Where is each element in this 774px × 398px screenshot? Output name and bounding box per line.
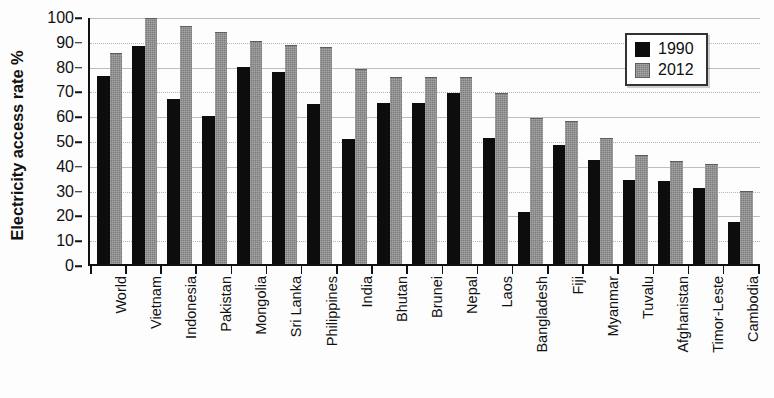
x-axis-tick-label: Tuvalu <box>640 276 656 319</box>
bar-group <box>92 18 127 264</box>
x-axis-tick-mark <box>617 266 619 274</box>
x-axis-tick-label: Timor-Leste <box>710 276 726 353</box>
x-axis-tick-mark <box>125 266 127 274</box>
bar-2012 <box>250 41 263 264</box>
y-axis-tick-label: 0 <box>65 257 74 275</box>
x-axis-tick-label: Laos <box>499 276 515 307</box>
x-axis-tick-label: Afghanistan <box>675 276 691 353</box>
bar-1990 <box>693 188 706 264</box>
x-axis-tick-mark <box>371 266 373 274</box>
y-axis-tick-label: 60 <box>56 108 74 126</box>
legend-item-2012: 2012 <box>635 61 694 79</box>
bar-2012 <box>355 69 368 264</box>
bar-2012 <box>215 32 228 264</box>
y-axis-tick-label: 30 <box>56 183 74 201</box>
x-axis-tick-mark <box>195 266 197 274</box>
x-axis-tick-mark <box>512 266 514 274</box>
x-axis-tick-mark <box>90 266 92 274</box>
bar-group <box>372 18 407 264</box>
y-axis-tick-mark <box>75 240 82 242</box>
bar-1990 <box>588 160 601 264</box>
bar-group <box>442 18 477 264</box>
x-axis-tick-mark <box>653 266 655 274</box>
y-axis-tick-mark <box>75 265 82 267</box>
bar-2012 <box>530 118 543 264</box>
y-axis-tick-mark <box>75 42 82 44</box>
y-axis-tick-mark <box>75 191 82 193</box>
bar-1990 <box>518 212 531 264</box>
x-axis-tick-mark <box>477 266 479 274</box>
bar-2012 <box>635 155 648 264</box>
y-axis-tick-mark <box>75 116 82 118</box>
x-axis-tick-label: Vietnam <box>148 276 164 329</box>
x-axis-tick-label: India <box>359 276 375 307</box>
bar-2012 <box>110 53 123 264</box>
bar-2012 <box>565 121 578 264</box>
x-axis-tick-marks <box>88 266 760 276</box>
x-axis-tick-mark <box>723 266 725 274</box>
x-axis-label-slot: Cambodia <box>745 276 774 296</box>
bar-group <box>337 18 372 264</box>
legend-item-1990: 1990 <box>635 40 694 58</box>
x-axis-tick-mark <box>442 266 444 274</box>
bar-2012 <box>600 138 613 264</box>
bar-2012 <box>320 47 333 264</box>
y-axis-tick-labels: 0102030405060708090100 <box>36 18 82 266</box>
y-axis-tick-label: 40 <box>56 158 74 176</box>
x-axis-tick-label: Fiji <box>570 276 586 295</box>
y-axis-tick-mark <box>75 67 82 69</box>
bar-2012 <box>705 164 718 264</box>
y-axis-tick-label: 50 <box>56 133 74 151</box>
bar-1990 <box>167 99 180 264</box>
bar-chart-figure: Electricity access rate % 01020304050607… <box>0 0 774 398</box>
x-axis-tick-label: World <box>113 276 129 314</box>
x-axis-tick-label: Mongolia <box>253 276 269 335</box>
legend-swatch-icon <box>635 63 650 78</box>
bar-group <box>197 18 232 264</box>
bar-1990 <box>342 139 355 264</box>
bar-2012 <box>285 45 298 264</box>
bar-group <box>723 18 758 264</box>
y-axis-tick-mark <box>75 141 82 143</box>
y-axis-tick-label: 100 <box>47 9 74 27</box>
x-axis-tick-mark <box>688 266 690 274</box>
chart-legend: 19902012 <box>625 33 708 86</box>
bar-1990 <box>202 116 215 264</box>
y-axis-title: Electricity access rate % <box>8 50 27 240</box>
x-axis-tick-label: Bangladesh <box>534 276 550 353</box>
bar-1990 <box>307 104 320 264</box>
bar-group <box>583 18 618 264</box>
x-axis-tick-label: Indonesia <box>183 276 199 339</box>
x-axis-tick-label: Myanmar <box>605 276 621 336</box>
x-axis-tick-label: Philippines <box>324 276 340 346</box>
bar-group <box>407 18 442 264</box>
bar-1990 <box>97 76 110 264</box>
x-axis-tick-mark <box>231 266 233 274</box>
bar-group <box>267 18 302 264</box>
bar-2012 <box>390 77 403 264</box>
x-axis-tick-label: Nepal <box>464 276 480 314</box>
x-axis-tick-label: Pakistan <box>218 276 234 332</box>
x-axis-tick-mark <box>758 266 760 274</box>
legend-label: 1990 <box>658 40 694 58</box>
x-axis-tick-label: Bhutan <box>394 276 410 322</box>
bar-group <box>232 18 267 264</box>
x-axis-tick-mark <box>406 266 408 274</box>
bar-1990 <box>132 46 145 264</box>
bar-1990 <box>447 93 460 264</box>
bar-group <box>548 18 583 264</box>
y-axis-title-container: Electricity access rate % <box>0 0 34 290</box>
x-axis-tick-mark <box>547 266 549 274</box>
bar-2012 <box>740 191 753 264</box>
y-axis-tick-label: 70 <box>56 83 74 101</box>
bar-2012 <box>460 77 473 264</box>
y-axis-tick-mark <box>75 17 82 19</box>
x-axis-tick-mark <box>582 266 584 274</box>
x-axis-tick-label: Brunei <box>429 276 445 318</box>
x-axis-tick-label: Cambodia <box>745 276 761 342</box>
bar-1990 <box>658 181 671 264</box>
y-axis-tick-label: 80 <box>56 59 74 77</box>
bar-1990 <box>412 103 425 264</box>
bar-1990 <box>623 180 636 264</box>
bar-1990 <box>553 145 566 264</box>
